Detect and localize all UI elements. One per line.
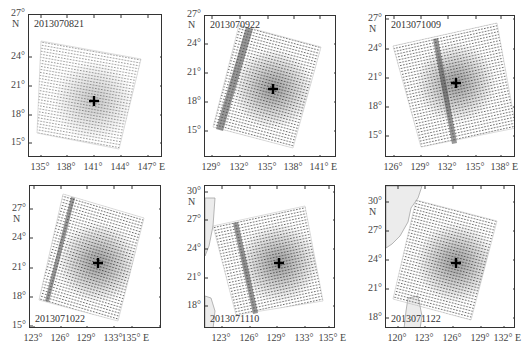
y-tick-label: 15° xyxy=(3,137,25,147)
y-tick-label: 24° xyxy=(360,254,382,264)
x-tick-label: 123° xyxy=(415,333,434,343)
east-axis-label: E xyxy=(515,333,521,343)
east-axis-label: E xyxy=(512,162,518,172)
y-tick-label: 18° xyxy=(4,291,26,301)
x-tick-label: 129° xyxy=(411,162,430,172)
north-axis-label: N xyxy=(13,214,20,224)
east-axis-label: E xyxy=(159,162,165,172)
x-tick-label: 123° xyxy=(212,333,231,343)
x-tick-label: 129° xyxy=(267,333,286,343)
panel-date-label: 2013070821 xyxy=(34,19,84,29)
x-tick-label: 129° xyxy=(202,162,221,172)
y-tick-label: 24° xyxy=(4,232,26,242)
north-axis-label: N xyxy=(12,19,19,29)
y-tick-label: 18° xyxy=(360,312,382,322)
panel-date-label: 2013070922 xyxy=(210,20,260,30)
y-tick-label: 15° xyxy=(179,125,201,135)
x-tick-label: 126° xyxy=(240,333,259,343)
map-frame: 2013071009 xyxy=(385,15,515,157)
x-tick-label: 129° xyxy=(471,333,490,343)
x-tick-label: 132° xyxy=(230,162,249,172)
y-tick-label: 27° xyxy=(360,225,382,235)
y-tick-label: 15° xyxy=(4,320,26,330)
y-tick-label: 24° xyxy=(179,243,201,253)
x-tick-label: 126° xyxy=(443,333,462,343)
x-tick-label: 144° xyxy=(111,162,130,172)
x-tick-label: 129° xyxy=(77,333,96,343)
x-tick-label: 138° xyxy=(57,162,76,172)
y-tick-label: 21° xyxy=(179,67,201,77)
north-axis-label: N xyxy=(369,207,376,217)
x-tick-label: 138° xyxy=(491,162,510,172)
panel-date-label: 2013071022 xyxy=(35,314,85,324)
x-tick-label: 126° xyxy=(384,162,403,172)
coastline-land xyxy=(205,198,215,328)
x-tick-label: 135° xyxy=(466,162,485,172)
y-tick-label: 24° xyxy=(3,51,25,61)
y-tick-label: 24° xyxy=(179,38,201,48)
panel-date-label: 2013071122 xyxy=(391,314,441,324)
x-tick-label: 123° xyxy=(24,333,43,343)
y-tick-label: 27° xyxy=(360,13,382,23)
y-tick-label: 30° xyxy=(360,196,382,206)
x-tick-label: 135° xyxy=(319,333,338,343)
y-tick-label: 30° xyxy=(179,186,201,196)
y-tick-label: 21° xyxy=(360,72,382,82)
wind-field-plot xyxy=(386,16,515,157)
y-tick-label: 21° xyxy=(4,262,26,272)
y-tick-label: 24° xyxy=(360,43,382,53)
y-tick-label: 27° xyxy=(179,214,201,224)
wind-field-plot xyxy=(29,15,162,157)
y-tick-label: 27° xyxy=(179,9,201,19)
x-tick-label: 135° xyxy=(122,333,141,343)
x-tick-label: 135° xyxy=(31,162,50,172)
y-tick-label: 21° xyxy=(360,283,382,293)
map-frame: 2013071110 xyxy=(204,185,335,328)
east-axis-label: E xyxy=(331,162,337,172)
x-tick-label: 141° xyxy=(84,162,103,172)
y-tick-label: 18° xyxy=(360,101,382,111)
x-tick-label: 141° xyxy=(310,162,329,172)
x-tick-label: 138° xyxy=(284,162,303,172)
y-tick-label: 15° xyxy=(360,130,382,140)
x-tick-label: 120° xyxy=(388,333,407,343)
map-frame: 2013071022 xyxy=(29,185,161,328)
y-tick-label: 27° xyxy=(3,8,25,18)
x-tick-label: 133° xyxy=(295,333,314,343)
y-tick-label: 21° xyxy=(3,80,25,90)
panel-date-label: 2013071110 xyxy=(210,314,259,324)
panel-date-label: 2013071009 xyxy=(391,20,441,30)
wind-field-plot xyxy=(386,186,515,328)
wind-field-plot xyxy=(30,186,161,328)
x-tick-label: 147° xyxy=(138,162,157,172)
east-axis-label: E xyxy=(340,333,346,343)
east-axis-label: E xyxy=(143,333,149,343)
x-tick-label: 132° xyxy=(494,333,513,343)
wind-field-plot xyxy=(205,186,335,328)
map-frame: 2013070922 xyxy=(204,15,336,157)
x-tick-label: 126° xyxy=(51,333,70,343)
x-tick-label: 135° xyxy=(258,162,277,172)
wind-field-plot xyxy=(205,16,336,157)
map-frame: 2013070821 xyxy=(28,14,162,157)
x-tick-label: 132° xyxy=(438,162,457,172)
north-axis-label: N xyxy=(369,24,376,34)
y-tick-label: 18° xyxy=(3,109,25,119)
y-tick-label: 18° xyxy=(179,96,201,106)
y-tick-label: 18° xyxy=(179,300,201,310)
y-tick-label: 21° xyxy=(179,272,201,282)
map-frame: 2013071122 xyxy=(385,185,515,328)
x-tick-label: 133° xyxy=(104,333,123,343)
y-tick-label: 27° xyxy=(4,203,26,213)
north-axis-label: N xyxy=(188,197,195,207)
north-axis-label: N xyxy=(188,20,195,30)
